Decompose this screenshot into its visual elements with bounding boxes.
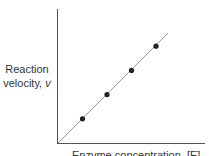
chart-plot [0,0,209,156]
x-axis-label: Enzyme concentration, [E] [72,149,200,156]
data-point [153,44,158,49]
fit-line [58,33,168,143]
data-point [104,92,109,97]
data-point [129,68,134,73]
data-point [80,116,85,121]
